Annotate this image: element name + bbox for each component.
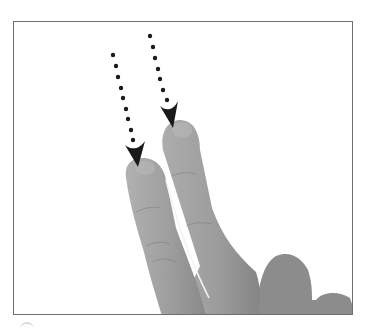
dotted-trail-icon [111, 53, 135, 142]
knuckle-ring [255, 254, 356, 316]
page-edge-mark [20, 322, 34, 330]
dotted-trail-icon [148, 34, 169, 102]
right-swipe-arrow [148, 34, 178, 128]
hand [126, 120, 356, 316]
nail-middle [172, 122, 192, 138]
left-swipe-arrow [111, 53, 145, 167]
